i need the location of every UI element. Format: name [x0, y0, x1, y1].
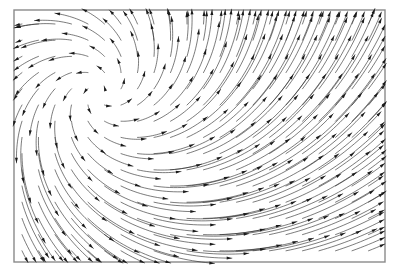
vector-field-figure — [0, 0, 401, 274]
vector-field-canvas — [0, 0, 401, 274]
